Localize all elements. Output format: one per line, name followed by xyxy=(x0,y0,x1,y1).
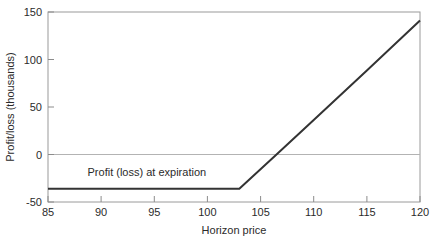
x-tick-label-110: 110 xyxy=(305,206,323,218)
profit-loss-line-chart: 150 100 50 0 -50 85 90 95 100 105 110 11… xyxy=(0,0,436,238)
series-annotation-label: Profit (loss) at expiration xyxy=(88,166,207,178)
x-tick-label-105: 105 xyxy=(251,206,269,218)
x-tick-label-120: 120 xyxy=(411,206,429,218)
x-axis-title: Horizon price xyxy=(202,224,267,236)
y-tick-label-0: 0 xyxy=(36,149,42,161)
x-tick-label-115: 115 xyxy=(358,206,376,218)
chart-figure: 150 100 50 0 -50 85 90 95 100 105 110 11… xyxy=(0,0,436,238)
y-tick-label-100: 100 xyxy=(24,54,42,66)
y-tick-label-neg50: -50 xyxy=(26,196,42,208)
y-tick-label-150: 150 xyxy=(24,6,42,18)
y-tick-label-50: 50 xyxy=(30,101,42,113)
x-tick-label-90: 90 xyxy=(95,206,107,218)
x-tick-label-95: 95 xyxy=(148,206,160,218)
x-tick-label-100: 100 xyxy=(198,206,216,218)
x-tick-label-85: 85 xyxy=(42,206,54,218)
y-axis-title: Profit/loss (thousands) xyxy=(4,52,16,161)
